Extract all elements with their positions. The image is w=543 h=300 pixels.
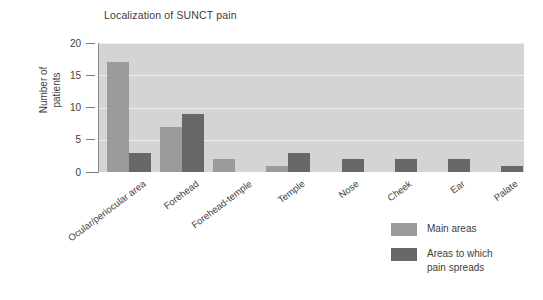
bar-spread [288, 153, 310, 172]
bar-group [205, 43, 258, 172]
bar-main [213, 159, 235, 172]
bars-layer [99, 43, 524, 172]
bar-main [160, 127, 182, 172]
legend-label-spread-areas: Areas to which pain spreads [427, 247, 493, 275]
bar-spread [182, 114, 204, 172]
y-tick-5: 5 [65, 133, 95, 147]
plot-area [99, 43, 524, 172]
y-tick-mark [86, 75, 95, 76]
y-tick-mark [86, 43, 95, 44]
bar-spread [395, 159, 417, 172]
y-tick-15: 15 [65, 68, 95, 82]
legend-swatch-main-areas [391, 223, 417, 236]
y-axis-label-line-1: Number of [37, 67, 50, 114]
bar-group [365, 43, 418, 172]
x-axis-label: Forehead [162, 178, 201, 211]
x-axis-label: Palate [491, 178, 519, 203]
y-tick-20: 20 [65, 36, 95, 50]
chart-figure: Localization of SUNCT pain Number of pat… [0, 0, 543, 300]
bar-main [107, 62, 129, 172]
legend-swatch-spread-areas [391, 248, 417, 261]
chart-title: Localization of SUNCT pain [104, 9, 237, 21]
y-tick-label: 15 [65, 70, 81, 81]
bar-spread [129, 153, 151, 172]
y-tick-mark [86, 107, 95, 108]
bar-group [99, 43, 152, 172]
bar-spread [448, 159, 470, 172]
y-axis-ticks: 05101520 [55, 36, 95, 178]
x-axis-label: Temple [276, 178, 307, 205]
x-axis-label: Ocular/periocular area [66, 178, 148, 243]
y-tick-label: 5 [65, 134, 81, 145]
y-tick-label: 20 [65, 38, 81, 49]
y-tick-10: 10 [65, 101, 95, 115]
bar-group [471, 43, 524, 172]
chart-legend: Main areas Areas to which pain spreads [391, 222, 541, 286]
bar-group [258, 43, 311, 172]
bar-spread [342, 159, 364, 172]
x-axis-label: Ear [448, 178, 466, 196]
legend-item-spread-areas: Areas to which pain spreads [391, 247, 541, 275]
legend-label-main-areas: Main areas [427, 222, 476, 236]
bar-group [312, 43, 365, 172]
x-axis-label: Cheek [385, 178, 414, 203]
y-tick-label: 10 [65, 102, 81, 113]
bar-group [152, 43, 205, 172]
legend-item-main-areas: Main areas [391, 222, 541, 236]
bar-group [418, 43, 471, 172]
x-axis-label: Nose [336, 178, 360, 200]
y-tick-mark [86, 139, 95, 140]
